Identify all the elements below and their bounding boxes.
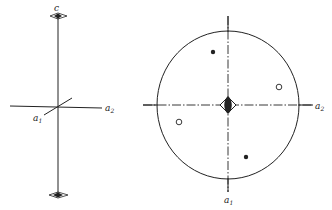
twofold-axis-top-icon	[50, 13, 67, 19]
left-figure: c a1 a2	[10, 3, 114, 198]
twofold-axis-bottom-icon	[49, 192, 68, 198]
a2-axis-label-right: a2	[315, 101, 324, 112]
diagram-canvas: c a1 a2 a2 a1	[0, 0, 332, 210]
a1-axis-label-right: a1	[224, 195, 233, 206]
a2-axis-label: a2	[105, 103, 114, 114]
c-axis-label: c	[54, 3, 59, 13]
right-figure: a2 a1	[143, 16, 324, 206]
pole-filled-upper-left	[211, 50, 215, 54]
a1-axis-label: a1	[33, 113, 42, 124]
pole-open-lower-left	[176, 119, 182, 125]
center-twofold-icon	[220, 96, 236, 114]
pole-filled-lower-right	[244, 155, 248, 159]
pole-open-upper-right	[276, 84, 282, 90]
